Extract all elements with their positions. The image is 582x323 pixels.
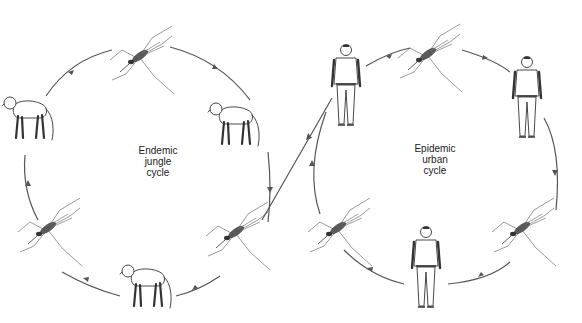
transmission-diagram <box>0 0 582 323</box>
jungle-cycle-label: Endemic jungle cycle <box>118 145 198 178</box>
urban-label-line-2: urban <box>395 154 475 165</box>
monkey-icon <box>2 97 53 140</box>
jungle-label-line-1: Endemic <box>118 145 198 156</box>
jungle-label-line-2: jungle <box>118 156 198 167</box>
mosquito-icon <box>206 202 270 270</box>
monkey-icon <box>120 265 171 308</box>
human-icon <box>332 45 360 126</box>
monkey-icon <box>208 103 259 146</box>
jungle-label-line-3: cycle <box>118 167 198 178</box>
urban-label-line-3: cycle <box>395 165 475 176</box>
mosquito-icon <box>492 198 556 266</box>
mosquito-icon <box>398 24 462 92</box>
mosquito-icon <box>18 198 82 266</box>
mosquito-icon <box>110 26 174 94</box>
urban-cycle-label: Epidemic urban cycle <box>395 143 475 176</box>
spillover-arrow <box>262 98 332 220</box>
human-icon <box>513 57 541 138</box>
human-icon <box>412 227 440 308</box>
urban-label-line-1: Epidemic <box>395 143 475 154</box>
